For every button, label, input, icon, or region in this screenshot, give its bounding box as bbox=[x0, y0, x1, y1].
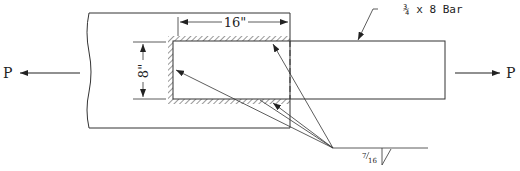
load-left-label: P bbox=[3, 65, 12, 81]
dim-length-label: 16" bbox=[224, 15, 247, 30]
dim-width-label: 8" bbox=[136, 64, 151, 78]
load-arrow-left: P bbox=[3, 65, 80, 81]
bar-leader: ¾ x 8 Bar bbox=[358, 3, 463, 40]
load-arrow-right: P bbox=[455, 65, 515, 81]
bar-label: ¾ x 8 Bar bbox=[403, 3, 463, 16]
bar bbox=[173, 41, 445, 99]
dimension-length: 16" bbox=[178, 15, 288, 36]
load-right-label: P bbox=[506, 65, 515, 81]
weld-size-den: 16 bbox=[368, 157, 377, 165]
weld-leaders bbox=[176, 44, 428, 148]
weld-diagram: 16" 8" P P ¾ x 8 Bar 7 16 bbox=[0, 0, 520, 171]
dimension-width: 8" bbox=[133, 42, 166, 99]
fillet-weld-hatching bbox=[168, 36, 290, 104]
main-plate bbox=[87, 13, 290, 128]
fillet-weld-symbol: 7 16 bbox=[362, 148, 391, 165]
